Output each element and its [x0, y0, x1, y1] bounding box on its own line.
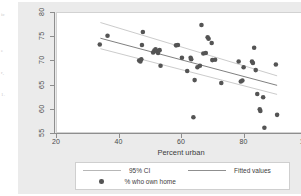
scatter-point	[97, 42, 102, 47]
stata-graph-canvas: 556065707580 20406080100 Percent urban 9…	[18, 2, 301, 194]
scatter-point	[252, 45, 257, 50]
ci-line	[100, 23, 277, 76]
legend-item-points: % who own home	[83, 178, 176, 185]
scatter-point	[255, 92, 260, 97]
x-axis-line	[55, 133, 301, 134]
scatter-point	[236, 59, 241, 64]
legend-item-fitted: Fitted values	[188, 167, 271, 174]
legend-label-ci: 95% CI	[129, 167, 150, 174]
y-axis-tick-label: 60	[38, 101, 54, 117]
scatter-point	[253, 68, 258, 73]
scatter-point	[213, 57, 218, 62]
scatter-point	[139, 57, 144, 62]
legend-item-ci: 95% CI	[83, 167, 150, 174]
scatter-point	[158, 64, 163, 69]
document-text-fragment: r,	[1, 70, 4, 75]
plot-area	[56, 12, 301, 133]
document-text-fragment: ic	[1, 12, 5, 17]
x-axis-tick-label: 100	[296, 138, 301, 145]
y-axis-tick-label: 65	[38, 77, 54, 93]
legend-label-points: % who own home	[125, 178, 176, 185]
scatter-point	[198, 64, 203, 69]
x-axis-tick-label: 80	[234, 138, 254, 145]
scatter-point	[141, 30, 146, 35]
y-axis-line	[54, 12, 55, 134]
scatter-plot-svg	[57, 13, 301, 132]
scatter-point	[274, 62, 279, 67]
scatter-point	[209, 41, 214, 46]
scatter-point	[240, 78, 245, 83]
document-page: icer,1. 556065707580 20406080100 Percent…	[0, 0, 301, 196]
x-axis-tick-label: 20	[46, 138, 66, 145]
line-swatch-icon	[83, 170, 121, 171]
scatter-point	[251, 61, 256, 66]
scatter-point	[140, 43, 145, 48]
scatter-point	[180, 55, 185, 60]
scatter-point	[275, 113, 280, 118]
scatter-point	[219, 81, 224, 86]
scatter-point	[258, 109, 263, 114]
scatter-point	[176, 43, 181, 48]
scatter-point	[261, 95, 266, 100]
scatter-point	[206, 36, 211, 41]
x-axis-tick-label: 40	[109, 138, 129, 145]
x-axis-tick-label: 60	[171, 138, 191, 145]
document-text-fragment: e	[1, 48, 3, 53]
chart-legend: 95% CI Fitted values % who own home	[75, 162, 290, 190]
y-axis-tick-label: 75	[38, 28, 54, 44]
dot-marker-icon	[99, 179, 104, 184]
scatter-point	[204, 51, 209, 56]
scatter-point	[192, 78, 197, 83]
scatter-point	[157, 48, 162, 53]
y-axis-tick-label: 70	[38, 52, 54, 68]
scatter-point	[199, 23, 204, 28]
legend-label-fitted: Fitted values	[234, 167, 271, 174]
scatter-point	[241, 65, 246, 70]
document-text-fragment: 1.	[1, 92, 5, 97]
scatter-point	[189, 57, 194, 62]
line-swatch-icon	[188, 170, 226, 171]
x-axis-title: Percent urban	[56, 148, 301, 157]
scatter-points	[97, 23, 279, 130]
scatter-point	[185, 69, 190, 74]
scatter-point	[262, 125, 267, 130]
y-axis-tick-label: 80	[38, 4, 54, 20]
scatter-point	[105, 34, 110, 39]
scatter-point	[191, 115, 196, 120]
